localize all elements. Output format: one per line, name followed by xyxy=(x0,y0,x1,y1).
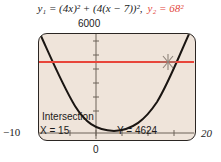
y-axis xyxy=(93,34,99,139)
graph-plot-area xyxy=(39,34,194,139)
y-axis-max-label: 6000 xyxy=(78,18,100,29)
x-axis-min-label: −10 xyxy=(3,126,20,138)
equation-y2: y₂ = 68² xyxy=(148,2,184,14)
equation-y1: y₁ = (4x)² + (4(x − 7))², xyxy=(37,2,142,14)
x-axis-max-label: 20 xyxy=(201,127,212,139)
intersection-status-label: Intersection xyxy=(42,111,94,122)
graphing-calculator-figure: y₁ = (4x)² + (4(x − 7))²,y₂ = 68² 6000 xyxy=(0,0,221,162)
y-value-readout: Y = 4624 xyxy=(117,125,157,136)
origin-label: 0 xyxy=(93,144,99,155)
equation-header: y₁ = (4x)² + (4(x − 7))²,y₂ = 68² xyxy=(0,2,221,14)
x-value-readout: X = 15 xyxy=(40,125,69,136)
